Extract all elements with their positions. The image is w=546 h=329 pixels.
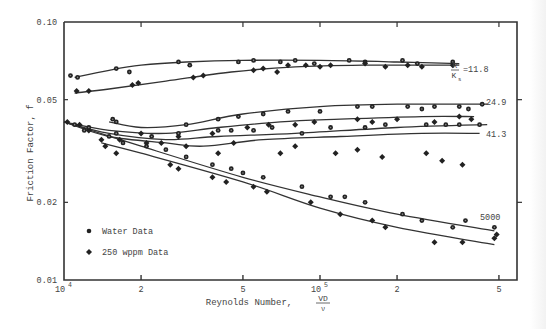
water-data-point-center [74,124,76,126]
water-data-point-center [253,130,255,132]
water-data-point-center [364,127,366,129]
water-data-point-center [271,127,273,129]
water-data-point-center [434,106,436,108]
polymer-data-point [167,162,173,168]
polymer-data-point [333,150,339,156]
water-data-point-center [425,124,427,126]
fit-curve [101,143,494,245]
water-data-point-center [77,77,79,79]
polymer-data-point [113,150,119,156]
polymer-data-point [98,137,104,143]
water-data-point-center [151,136,153,138]
water-data-point-center [357,106,359,108]
polymer-data-point [138,130,144,136]
polymer-data-point [158,140,164,146]
friction-factor-chart: 10425105250.100.050.020.01 RKs=11.824.94… [0,0,546,329]
polymer-data-point [369,119,375,125]
curve-annotations: RKs=11.824.941.35000 [451,61,506,223]
water-data-point-center [465,220,467,222]
water-data-point-center [88,127,90,129]
water-data-point-center [146,145,148,147]
polymer-data-point [405,62,411,68]
polymer-data-point [223,179,229,185]
water-data-point-center [402,60,404,62]
curve-label: 24.9 [486,98,506,108]
curve-label: 5000 [480,213,500,223]
water-data-point-center [348,60,350,62]
water-data-point-center [230,168,232,170]
polymer-data-point [129,82,135,88]
polymer-data-point [354,116,360,122]
x-tick-label: 2 [139,285,144,295]
water-data-point-center [458,106,460,108]
water-data-point-center [330,127,332,129]
ratio-numerator: R [453,61,458,70]
water-data-point-center [301,186,303,188]
polymer-data-point [215,150,221,156]
polymer-data-point [431,119,437,125]
polymer-data-point [277,150,283,156]
water-data-point-center [319,111,321,113]
water-data-point-center [494,227,496,229]
y-tick-label: 0.10 [37,18,57,28]
polymer-data-point [260,66,266,72]
y-tick-label: 0.02 [37,198,57,208]
polymer-data-point [456,114,462,120]
water-data-point-center [344,196,346,198]
water-data-point-center [115,133,117,135]
polymer-data-point [439,158,445,164]
water-data-point-center [452,227,454,229]
water-data-point-center [287,111,289,113]
water-data-point-center [479,124,481,126]
legend-diamond-marker [86,249,92,255]
water-data-point-center [468,108,470,110]
curve-label: =11.8 [463,65,489,75]
y-tick-label: 0.05 [37,96,57,106]
water-data-point-center [185,124,187,126]
water-data-point-center [402,213,404,215]
polymer-data-point [379,154,385,160]
water-data-point-center [407,106,409,108]
water-data-point-center [262,113,264,115]
water-data-point-center [301,133,303,135]
x-axis-label-numerator: VD [318,294,328,303]
polymer-data-point [175,166,181,172]
polymer-data-point [292,143,298,149]
water-data-point-center [112,118,114,120]
fit-curve [75,65,460,93]
water-data-point-center [238,61,240,63]
water-data-point-center [185,156,187,158]
x-tick-label: 2 [395,285,400,295]
water-data-point-center [129,71,131,73]
water-data-point-center [115,121,117,123]
water-data-point-center [178,133,180,135]
water-data-point-center [421,108,423,110]
y-axis-label: Friction Factor, f [26,104,36,201]
legend-label-water: Water Data [102,227,153,237]
polymer-data-point [251,67,257,73]
polymer-data-point [303,62,309,68]
x-axis-label: Reynolds Number, [206,298,292,308]
water-data-point-center [280,61,282,63]
water-data-point-center [421,220,423,222]
legend-label-polymer: 250 wppm Data [102,248,168,258]
polymer-data-point [274,69,280,75]
x-tick-label: 5 [496,285,501,295]
water-data-point-center [417,63,419,65]
water-data-point-center [458,124,460,126]
legend: Water Data 250 wppm Data [86,227,168,258]
water-data-point-center [83,130,85,132]
water-data-point-center [364,202,366,204]
x-tick-label: 10 [55,285,65,295]
polymer-data-point [337,211,343,217]
x-tick-label: 5 [240,285,245,295]
water-data-point-center [253,60,255,62]
ratio-subscript: s [458,76,461,83]
polymer-data-point [459,162,465,168]
polymer-data-point [190,74,196,80]
water-data-point-center [212,164,214,166]
water-data-point-center [122,142,124,144]
polymer-data-point [431,239,437,245]
polymer-data-point [231,140,237,146]
polymer-data-point [423,150,429,156]
